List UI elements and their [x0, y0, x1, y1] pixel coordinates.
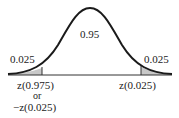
right-cutoff-label: z(0.025)	[119, 79, 156, 91]
center-area-label: 0.95	[80, 28, 99, 40]
right-tail-area-label: 0.025	[144, 53, 169, 65]
left-cutoff-label-line3: −z(0.025)	[13, 101, 56, 113]
left-tail-area-label: 0.025	[10, 53, 35, 65]
